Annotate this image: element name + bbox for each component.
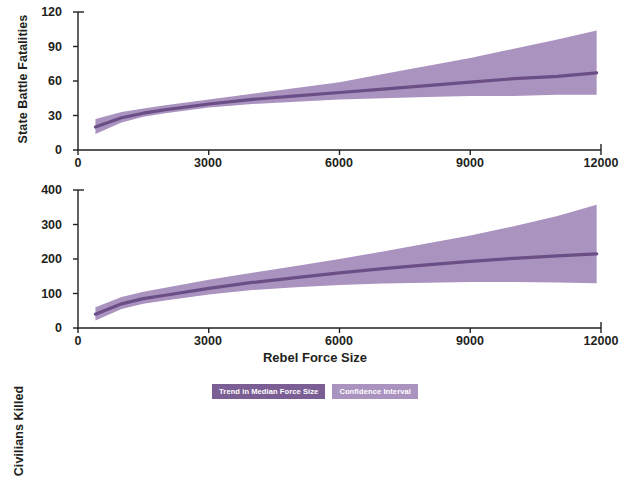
- x-axis-title: Rebel Force Size: [0, 350, 630, 365]
- plot-area-top: [0, 0, 630, 178]
- y-tick-label-bottom-200: 200: [16, 252, 62, 266]
- x-tick-label-top-3000: 3000: [194, 156, 222, 170]
- y-tick-label-top-60: 60: [16, 74, 62, 88]
- chart-panel-civilians-killed: Civilians Killed 400 300 200 100 0 0 300…: [0, 178, 630, 356]
- y-tick-label-bottom-400: 400: [16, 183, 62, 197]
- x-tick-label-top-12000: 12000: [584, 156, 619, 170]
- x-tick-label-top-9000: 9000: [456, 156, 484, 170]
- legend: Trend in Median Force Size Confidence In…: [0, 384, 630, 399]
- y-tick-label-top-0: 0: [16, 143, 62, 157]
- legend-item-confidence-interval: Confidence Interval: [332, 384, 418, 399]
- x-tick-label-bottom-3000: 3000: [194, 334, 222, 348]
- y-tick-label-bottom-300: 300: [16, 218, 62, 232]
- x-tick-label-bottom-9000: 9000: [456, 334, 484, 348]
- chart-panel-state-battle-fatalities: State Battle Fatalities 120 90 60 30 0 0…: [0, 0, 630, 178]
- confidence-band-top: [95, 30, 596, 133]
- y-tick-label-top-120: 120: [16, 5, 62, 19]
- x-tick-label-bottom-12000: 12000: [584, 334, 619, 348]
- confidence-band-bottom: [95, 205, 596, 321]
- y-tick-label-bottom-100: 100: [16, 287, 62, 301]
- legend-item-trend: Trend in Median Force Size: [212, 384, 325, 399]
- plot-area-bottom: [0, 178, 630, 356]
- x-tick-label-bottom-0: 0: [75, 334, 82, 348]
- x-tick-label-bottom-6000: 6000: [325, 334, 353, 348]
- x-tick-label-top-6000: 6000: [325, 156, 353, 170]
- x-tick-label-top-0: 0: [75, 156, 82, 170]
- y-tick-label-top-90: 90: [16, 40, 62, 54]
- y-tick-label-bottom-0: 0: [16, 321, 62, 335]
- y-tick-label-top-30: 30: [16, 109, 62, 123]
